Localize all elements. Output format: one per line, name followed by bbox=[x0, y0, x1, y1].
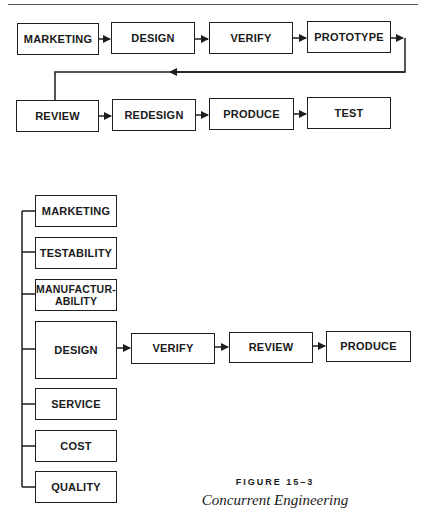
figure-title: Concurrent Engineering bbox=[170, 492, 380, 509]
conc-chain-label: VERIFY bbox=[153, 342, 194, 355]
conc-input-label: SERVICE bbox=[51, 398, 101, 411]
seq-box-prototype: PROTOTYPE bbox=[307, 21, 391, 53]
conc-input-quality: QUALITY bbox=[35, 471, 117, 503]
figure-number: FIGURE 15–3 bbox=[170, 477, 380, 487]
conc-chain-label: PRODUCE bbox=[340, 340, 396, 353]
seq-box-label: REDESIGN bbox=[124, 109, 183, 122]
conc-input-testability: TESTABILITY bbox=[35, 237, 117, 269]
conc-input-label: TESTABILITY bbox=[40, 247, 112, 260]
conc-chain-produce: PRODUCE bbox=[326, 331, 411, 362]
seq-box-verify: VERIFY bbox=[209, 22, 293, 54]
conc-input-label: QUALITY bbox=[51, 481, 101, 494]
conc-input-label: DESIGN bbox=[54, 344, 97, 357]
seq-box-redesign: REDESIGN bbox=[112, 99, 196, 131]
seq-box-label: VERIFY bbox=[231, 32, 272, 45]
conc-input-label: MANUFACTUR- ABILITY bbox=[36, 283, 116, 307]
seq-box-produce: PRODUCE bbox=[209, 98, 294, 130]
seq-box-review: REVIEW bbox=[16, 100, 99, 132]
conc-input-manufacturability: MANUFACTUR- ABILITY bbox=[35, 279, 117, 311]
conc-input-design: DESIGN bbox=[35, 321, 117, 379]
conc-chain-label: REVIEW bbox=[249, 341, 294, 354]
page-header-rule bbox=[8, 4, 418, 5]
seq-box-design: DESIGN bbox=[111, 22, 195, 54]
conc-input-label: MARKETING bbox=[42, 205, 110, 218]
seq-box-label: REVIEW bbox=[35, 110, 80, 123]
seq-box-marketing: MARKETING bbox=[17, 23, 99, 55]
seq-box-label: MARKETING bbox=[24, 33, 92, 46]
seq-box-test: TEST bbox=[307, 97, 391, 129]
seq-box-label: DESIGN bbox=[131, 32, 174, 45]
seq-box-label: TEST bbox=[335, 107, 364, 120]
seq-box-label: PROTOTYPE bbox=[314, 31, 383, 44]
conc-input-label: COST bbox=[60, 440, 91, 453]
conc-input-cost: COST bbox=[35, 430, 117, 462]
conc-input-service: SERVICE bbox=[35, 388, 117, 420]
conc-input-marketing: MARKETING bbox=[35, 195, 117, 227]
seq-box-label: PRODUCE bbox=[223, 108, 279, 121]
conc-chain-verify: VERIFY bbox=[131, 333, 215, 364]
conc-chain-review: REVIEW bbox=[229, 332, 313, 363]
